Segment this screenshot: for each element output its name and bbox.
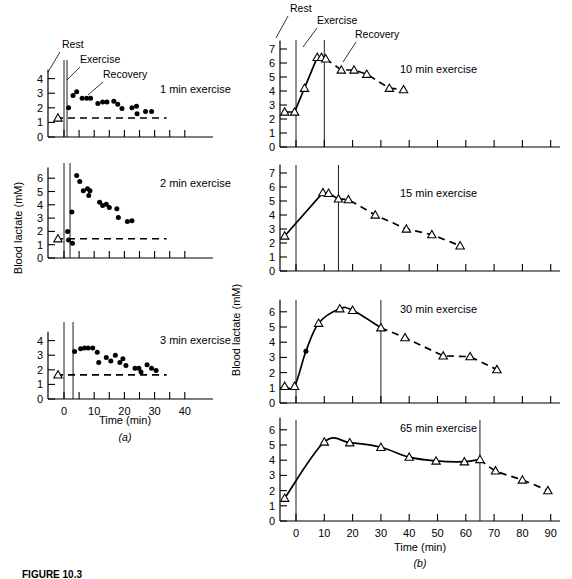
y-tick-label-b3: 6 [269, 306, 275, 318]
exercise-marker-b4 [476, 455, 484, 462]
data-point-a1 [66, 105, 71, 110]
data-point-a3 [95, 350, 100, 355]
data-point-a2 [65, 229, 70, 234]
y-tick-label-a2: 6 [37, 172, 43, 184]
data-point-a2 [70, 241, 75, 246]
exercise-leader-a [67, 67, 80, 80]
rest-annotation-b: Rest [290, 2, 312, 14]
data-point-a3 [145, 362, 150, 367]
panel-title-a3: 3 min exercise [160, 334, 231, 346]
x-tick-label-b4: 20 [346, 527, 358, 539]
data-point-a1 [143, 109, 148, 114]
x-tick-label-a3: 0 [61, 405, 67, 417]
data-point-a3 [90, 345, 95, 350]
y-tick-label-a2: 1 [37, 239, 43, 251]
exercise-leader-b [303, 28, 317, 47]
x-tick-label-b4: 50 [431, 527, 443, 539]
rest-leader-b [276, 16, 288, 38]
recovery-curve-b4 [480, 459, 548, 490]
y-axis-label-a: Blood lactate (mM) [12, 182, 24, 274]
x-tick-label-a3: 40 [179, 405, 191, 417]
x-tick-label-b4: 90 [545, 527, 557, 539]
y-tick-label-b2: 4 [269, 209, 275, 221]
data-point-a3 [72, 349, 77, 354]
data-point-a1 [88, 96, 93, 101]
x-axis-label-b: Time (min) [394, 541, 446, 553]
rest-leader-a [48, 52, 60, 72]
data-point-a1 [149, 109, 154, 114]
data-point-a2 [87, 188, 92, 193]
y-tick-label-b2: 1 [269, 251, 275, 263]
exercise-annotation-a: Exercise [80, 53, 120, 65]
y-tick-label-a3: 2 [37, 364, 43, 376]
rest-annotation-a: Rest [62, 38, 84, 50]
data-point-a2 [107, 205, 112, 210]
panel-b-label: (b) [414, 557, 427, 569]
recovery-marker-b4 [491, 467, 499, 474]
figure-caption: FIGURE 10.3 [22, 569, 82, 579]
data-point-a1 [80, 96, 85, 101]
data-point-a1 [115, 102, 120, 107]
data-point-a2 [125, 219, 130, 224]
recovery-curve-b3 [381, 328, 497, 370]
y-tick-label-b1: 7 [269, 43, 275, 55]
data-point-a2 [66, 238, 71, 243]
exercise-curve-b3 [285, 307, 381, 388]
y-tick-label-b2: 0 [269, 265, 275, 277]
data-point-a2 [116, 215, 121, 220]
data-point-a1 [74, 89, 79, 94]
y-tick-label-b3: 5 [269, 321, 275, 333]
data-point-a2 [86, 193, 91, 198]
data-point-a1 [135, 111, 140, 116]
y-tick-label-b1: 0 [269, 141, 275, 153]
y-tick-label-a1: 4 [37, 73, 43, 85]
data-point-a3 [108, 359, 113, 364]
recovery-leader-a [88, 82, 103, 95]
y-tick-label-a2: 3 [37, 212, 43, 224]
y-tick-label-b3: 2 [269, 367, 275, 379]
y-tick-label-b3: 1 [269, 382, 275, 394]
y-tick-label-b2: 6 [269, 181, 275, 193]
recovery-leader-b [343, 42, 356, 62]
data-point-a3 [86, 345, 91, 350]
x-tick-label-b4: 0 [293, 527, 299, 539]
data-point-a3 [96, 360, 101, 365]
blood-lactate-figure: 012341 min exercise01234562 min exercise… [0, 0, 572, 579]
figure-container: 012341 min exercise01234562 min exercise… [0, 0, 572, 579]
y-tick-label-b1: 6 [269, 57, 275, 69]
y-tick-label-a3: 4 [37, 335, 43, 347]
y-tick-label-b1: 3 [269, 99, 275, 111]
y-tick-label-b2: 5 [269, 195, 275, 207]
exercise-marker-b3 [280, 382, 288, 389]
panel-title-b1: 10 min exercise [400, 63, 477, 75]
x-axis-label-a: Time (min) [99, 414, 151, 426]
y-tick-label-b4: 6 [269, 424, 275, 436]
recovery-annotation-b: Recovery [355, 28, 400, 40]
y-axis-label-b: Blood lactate (mM) [230, 284, 242, 376]
y-tick-label-a3: 3 [37, 349, 43, 361]
x-tick-label-b4: 40 [403, 527, 415, 539]
y-tick-label-a1: 2 [37, 102, 43, 114]
y-tick-label-a3: 0 [37, 393, 43, 405]
x-tick-label-b4: 30 [375, 527, 387, 539]
y-tick-label-b4: 3 [269, 469, 275, 481]
recovery-marker-b3 [401, 333, 409, 340]
y-tick-label-b4: 5 [269, 439, 275, 451]
panel-title-b2: 15 min exercise [400, 187, 477, 199]
data-point-a2 [74, 173, 79, 178]
data-point-a3 [120, 356, 125, 361]
data-point-a1 [119, 106, 124, 111]
data-point-a1 [104, 99, 109, 104]
y-tick-label-b1: 1 [269, 127, 275, 139]
data-point-a1 [95, 101, 100, 106]
data-point-a1 [129, 105, 134, 110]
x-tick-label-b4: 60 [460, 527, 472, 539]
y-tick-label-a2: 5 [37, 186, 43, 198]
recovery-curve-b2 [338, 199, 460, 246]
y-tick-label-a1: 0 [37, 131, 43, 143]
data-point-a1 [71, 93, 76, 98]
y-tick-label-b4: 1 [269, 500, 275, 512]
recovery-marker-b2 [371, 211, 379, 218]
exercise-marker-b3 [290, 382, 298, 389]
y-tick-label-b3: 4 [269, 336, 275, 348]
